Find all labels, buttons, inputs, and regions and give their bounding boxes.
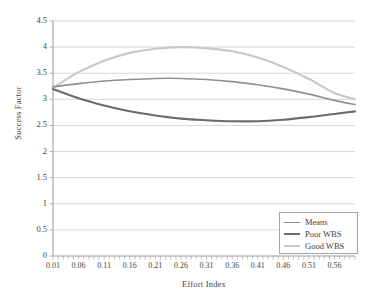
legend-label: Poor WBS [305, 229, 341, 239]
y-axis-tick-label: 1 [13, 199, 47, 208]
y-axis-tick-label: 3 [13, 94, 47, 103]
legend-swatch-means [284, 222, 300, 223]
y-axis-tick-label: 4.5 [13, 16, 47, 25]
chart-legend: MeansPoor WBSGood WBS [279, 212, 358, 254]
legend-label: Good WBS [305, 241, 344, 251]
legend-item[interactable]: Good WBS [280, 240, 357, 252]
legend-label: Means [305, 217, 328, 227]
legend-item[interactable]: Means [280, 216, 357, 228]
legend-swatch-good-wbs [284, 245, 300, 247]
series-line-means [53, 78, 355, 104]
y-axis-tick-label: 0 [13, 251, 47, 260]
chart-container: Success Factor Effort Index 00.511.522.5… [0, 0, 374, 301]
plot-area [0, 0, 374, 301]
y-axis-tick-label: 1.5 [13, 173, 47, 182]
y-axis-tick-label: 2.5 [13, 120, 47, 129]
y-axis-tick-label: 0.5 [13, 225, 47, 234]
legend-swatch-poor-wbs [284, 233, 300, 235]
x-axis-tick-label: 0.56 [315, 261, 355, 270]
y-axis-tick-label: 4 [13, 42, 47, 51]
legend-item[interactable]: Poor WBS [280, 228, 357, 240]
y-axis-tick-label: 2 [13, 147, 47, 156]
y-axis-tick-label: 3.5 [13, 68, 47, 77]
